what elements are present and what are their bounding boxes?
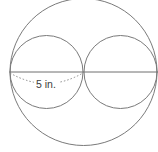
outer-circle [10, 0, 157, 146]
circle-diagram: 5 in. [0, 0, 158, 152]
measurement-label: 5 in. [36, 78, 56, 90]
